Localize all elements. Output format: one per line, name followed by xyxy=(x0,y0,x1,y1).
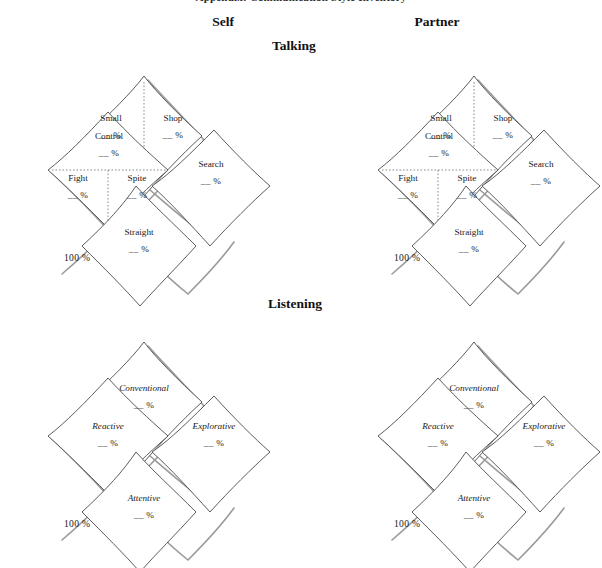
label-attentive: Attentive __ % xyxy=(108,494,180,520)
label-search: Search __ % xyxy=(512,160,570,186)
column-heading-self: Self xyxy=(168,14,278,30)
label-attentive: Attentive __ % xyxy=(438,494,510,520)
label-search: Search __ % xyxy=(182,160,240,186)
label-fight: Fight __ % xyxy=(49,174,107,200)
label-spite: Spite __ % xyxy=(108,174,166,200)
pinwheel-partner-listening: Conventional __ % Reactive __ % Explorat… xyxy=(348,318,598,568)
label-shop: Shop __ % xyxy=(144,114,202,140)
pinwheel-partner-talking: Small __ % Shop __ % Control __ % Fight … xyxy=(348,52,598,302)
label-shop: Shop __ % xyxy=(474,114,532,140)
total-label: 100 % xyxy=(64,252,90,263)
label-spite: Spite __ % xyxy=(438,174,496,200)
total-label: 100 % xyxy=(394,518,420,529)
cut-off-running-header: Appendix: Communication Style Inventory xyxy=(0,0,602,3)
label-reactive: Reactive __ % xyxy=(400,422,476,448)
label-fight: Fight __ % xyxy=(379,174,437,200)
label-straight: Straight __ % xyxy=(110,228,168,254)
label-explorative: Explorative __ % xyxy=(502,422,586,448)
label-conventional: Conventional __ % xyxy=(100,384,188,410)
pinwheel-self-listening: Conventional __ % Reactive __ % Explorat… xyxy=(18,318,268,568)
label-explorative: Explorative __ % xyxy=(172,422,256,448)
total-label: 100 % xyxy=(64,518,90,529)
label-control: Control __ % xyxy=(408,132,470,158)
label-reactive: Reactive __ % xyxy=(70,422,146,448)
column-heading-partner: Partner xyxy=(382,14,492,30)
label-straight: Straight __ % xyxy=(440,228,498,254)
total-label: 100 % xyxy=(394,252,420,263)
label-conventional: Conventional __ % xyxy=(430,384,518,410)
label-control: Control __ % xyxy=(78,132,140,158)
row-heading-listening: Listening xyxy=(268,296,322,312)
pinwheel-self-talking: Small __ % Shop __ % Control __ % Fight … xyxy=(18,52,268,302)
row-heading-talking: Talking xyxy=(272,38,316,54)
